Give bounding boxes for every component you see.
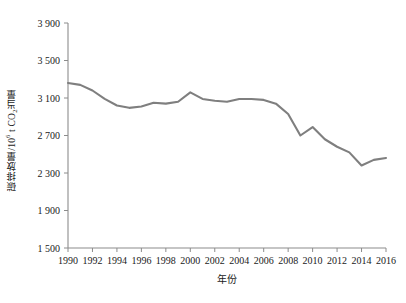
x-tick-label: 2000 (180, 255, 200, 266)
y-tick-label: 3 500 (38, 55, 61, 66)
y-tick-label: 2 700 (38, 130, 61, 141)
x-tick-label: 2014 (352, 255, 372, 266)
y-tick-label: 2 300 (38, 168, 61, 179)
x-tick-label: 2016 (376, 255, 396, 266)
x-tick-label: 2012 (327, 255, 347, 266)
x-tick-label: 2008 (278, 255, 298, 266)
y-tick-label: 1 900 (38, 205, 61, 216)
x-tick-label: 2004 (229, 255, 249, 266)
x-tick-label: 2010 (303, 255, 323, 266)
chart-canvas: 1 5001 9002 3002 7003 1003 5003 900 1990… (0, 0, 406, 303)
line-chart: 1 5001 9002 3002 7003 1003 5003 900 1990… (0, 0, 406, 303)
x-tick-label: 1990 (58, 255, 78, 266)
y-tick-label: 1 500 (38, 243, 61, 254)
x-tick-label: 1998 (156, 255, 176, 266)
y-tick-label: 3 900 (38, 18, 61, 29)
x-tick-label: 2006 (254, 255, 274, 266)
x-tick-label: 2002 (205, 255, 225, 266)
x-tick-label: 1996 (131, 255, 151, 266)
x-tick-label: 1994 (107, 255, 127, 266)
x-tick-label: 1992 (82, 255, 102, 266)
y-tick-label: 3 100 (38, 93, 61, 104)
x-axis-title: 年份 (217, 273, 237, 285)
